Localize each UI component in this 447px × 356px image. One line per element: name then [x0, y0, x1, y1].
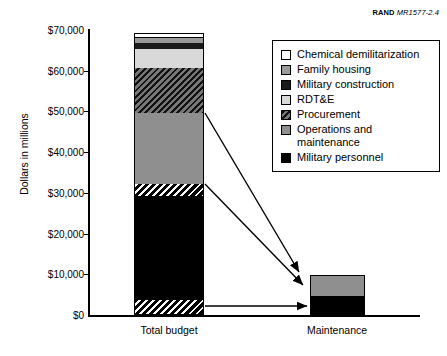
legend-label-procurement: Procurement [297, 108, 360, 121]
y-tick-label-50000: $50,000 [48, 106, 84, 117]
y-axis-tick-labels: $70,000 $60,000 $50,000 $40,000 $30,000 … [0, 0, 84, 356]
segment-procurement [134, 68, 204, 113]
bar-total-budget[interactable] [134, 33, 204, 315]
legend-label-operations-and-maintenance: Operations and maintenance [297, 123, 372, 149]
segment-rdte [134, 49, 204, 68]
x-tick-label-maintenance: Maintenance [307, 324, 367, 336]
segment-maintenance-operations-and-maintenance [310, 275, 365, 296]
legend-swatch-military-personnel [281, 153, 291, 163]
segment-operations-and-maintenance [134, 113, 204, 184]
legend-swatch-family-housing [281, 65, 291, 75]
arrow-milpers-upper-to-maintenance [205, 184, 303, 285]
segment-maintenance-military-personnel [310, 296, 365, 315]
figure-container: RAND MR1577-2.4 $70,000 $60,000 $50,000 … [0, 0, 447, 356]
segment-military-personnel [134, 196, 204, 300]
y-tick-label-0: $0 [73, 310, 84, 321]
y-tick-label-60000: $60,000 [48, 65, 84, 76]
y-tick-label-70000: $70,000 [48, 25, 84, 36]
legend-label-family-housing: Family housing [297, 63, 371, 76]
legend-label-chemical-demilitarization: Chemical demilitarization [297, 48, 419, 61]
legend-item-military-construction[interactable]: Military construction [281, 78, 430, 91]
legend: Chemical demilitarization Family housing… [272, 40, 440, 172]
y-tick-label-40000: $40,000 [48, 147, 84, 158]
legend-item-operations-and-maintenance[interactable]: Operations and maintenance [281, 123, 430, 149]
segment-military-personnel-lower-band [134, 300, 204, 315]
y-tick-label-10000: $10,000 [48, 269, 84, 280]
legend-swatch-operations-and-maintenance [281, 125, 291, 135]
legend-item-procurement[interactable]: Procurement [281, 108, 430, 121]
legend-item-family-housing[interactable]: Family housing [281, 63, 430, 76]
legend-label-military-personnel: Military personnel [297, 151, 383, 164]
bar-maintenance[interactable] [310, 275, 365, 315]
rand-credit-line: RAND MR1577-2.4 [372, 8, 439, 17]
legend-swatch-rdte [281, 95, 291, 105]
x-tick-label-total-budget: Total budget [140, 324, 197, 336]
legend-swatch-procurement [281, 110, 291, 120]
rand-document-code: MR1577-2.4 [397, 8, 439, 17]
legend-label-rdte: RDT&E [297, 93, 334, 106]
legend-item-military-personnel[interactable]: Military personnel [281, 151, 430, 164]
legend-swatch-chemical-demilitarization [281, 50, 291, 60]
segment-military-personnel-upper-band [134, 184, 204, 196]
y-tick-label-20000: $20,000 [48, 228, 84, 239]
rand-logo-text: RAND [372, 8, 394, 17]
y-tick-label-30000: $30,000 [48, 187, 84, 198]
y-axis-title: Dollars in millions [18, 89, 30, 219]
legend-item-chemical-demilitarization[interactable]: Chemical demilitarization [281, 48, 430, 61]
legend-swatch-military-construction [281, 80, 291, 90]
x-axis-line [88, 315, 420, 317]
legend-item-rdte[interactable]: RDT&E [281, 93, 430, 106]
legend-label-military-construction: Military construction [297, 78, 394, 91]
